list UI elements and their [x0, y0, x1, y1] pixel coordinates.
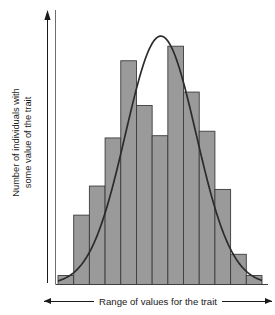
histogram-bar — [184, 92, 200, 284]
histogram-figure: Number of individuals with some value of… — [0, 0, 275, 315]
histogram-bar — [215, 189, 231, 284]
histogram-bar — [121, 61, 137, 285]
arrow-right-icon — [222, 301, 272, 302]
histogram-bar — [105, 138, 121, 285]
x-axis-label-row: Range of values for the trait — [44, 290, 272, 312]
arrow-left-icon — [44, 301, 94, 302]
histogram-bars — [58, 46, 262, 284]
y-axis-arrow-icon — [44, 10, 50, 283]
histogram-bar — [152, 136, 168, 285]
histogram-bar — [168, 46, 184, 284]
histogram-bar — [136, 106, 152, 285]
x-axis-label: Range of values for the trait — [97, 296, 219, 307]
histogram-bar — [74, 215, 90, 284]
plot-area — [0, 0, 275, 315]
